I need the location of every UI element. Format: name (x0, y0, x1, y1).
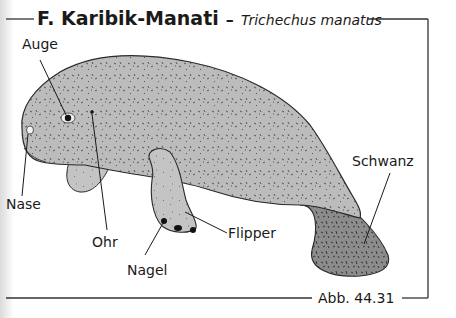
nail-3 (190, 227, 196, 233)
manatee-body (22, 55, 361, 218)
title-common-name: F. Karibik-Manati (37, 7, 219, 29)
title-separator: – (226, 10, 234, 29)
label-tail: Schwanz (352, 153, 414, 169)
label-flipper: Flipper (228, 225, 276, 241)
nail-pointer (145, 223, 163, 255)
nostril-icon (27, 126, 34, 134)
nail-2 (174, 225, 182, 231)
tail-pointer (364, 173, 390, 244)
title-scientific-name: Trichechus manatus (241, 12, 382, 28)
label-nail: Nagel (127, 262, 167, 278)
label-eye: Auge (22, 36, 58, 52)
nail-1 (161, 218, 167, 224)
figure-caption: Abb. 44.31 (316, 290, 396, 306)
ear-icon (90, 110, 94, 114)
label-ear: Ohr (92, 234, 118, 250)
figure-title: F. Karibik-Manati – Trichechus manatus (37, 6, 382, 32)
label-nose: Nase (6, 196, 41, 212)
